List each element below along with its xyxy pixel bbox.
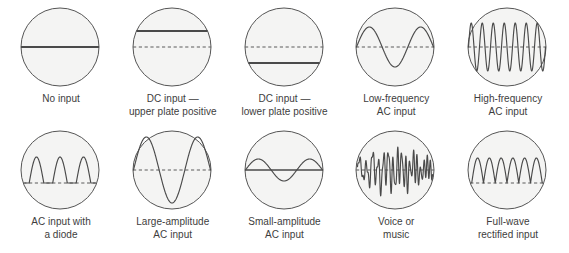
waveform-cell-ac-input-with-diode: AC input with a diode — [8, 129, 114, 241]
scope-screen-voice-or-music — [354, 129, 438, 213]
waveform-row-bottom: AC input with a diodeLarge-amplitude AC … — [0, 126, 569, 253]
waveform-cell-low-frequency-ac: Low-frequency AC input — [343, 6, 449, 118]
scope-wrap-dc-lower-plate-positive — [232, 6, 338, 90]
scope-wrap-ac-input-with-diode — [8, 129, 114, 213]
waveform-caption-voice-or-music: Voice or music — [378, 216, 415, 241]
scope-wrap-high-frequency-ac — [455, 6, 561, 90]
scope-wrap-no-input — [8, 6, 114, 90]
scope-wrap-low-frequency-ac — [343, 6, 449, 90]
waveform-row-top: No inputDC input — upper plate positiveD… — [0, 0, 569, 126]
oscilloscope-waveform-figure: No inputDC input — upper plate positiveD… — [0, 0, 569, 253]
waveform-cell-dc-upper-plate-positive: DC input — upper plate positive — [120, 6, 226, 118]
waveform-cell-no-input: No input — [8, 6, 114, 106]
scope-screen-no-input — [19, 6, 103, 90]
scope-wrap-large-amplitude-ac — [120, 129, 226, 213]
waveform-cell-high-frequency-ac: High-frequency AC input — [455, 6, 561, 118]
waveform-cell-large-amplitude-ac: Large-amplitude AC input — [120, 129, 226, 241]
waveform-caption-large-amplitude-ac: Large-amplitude AC input — [136, 216, 209, 241]
scope-bezel — [21, 131, 99, 209]
waveform-caption-dc-lower-plate-positive: DC input — lower plate positive — [241, 93, 327, 118]
waveform-caption-high-frequency-ac: High-frequency AC input — [474, 93, 543, 118]
scope-wrap-voice-or-music — [343, 129, 449, 213]
scope-bezel — [468, 131, 546, 209]
scope-screen-high-frequency-ac — [466, 6, 550, 90]
waveform-cell-dc-lower-plate-positive: DC input — lower plate positive — [232, 6, 338, 118]
scope-wrap-small-amplitude-ac — [232, 129, 338, 213]
waveform-caption-no-input: No input — [42, 93, 80, 106]
waveform-caption-small-amplitude-ac: Small-amplitude AC input — [248, 216, 320, 241]
waveform-cell-small-amplitude-ac: Small-amplitude AC input — [232, 129, 338, 241]
scope-screen-full-wave-rectified — [466, 129, 550, 213]
waveform-caption-full-wave-rectified: Full-wave rectified input — [478, 216, 538, 241]
scope-wrap-dc-upper-plate-positive — [120, 6, 226, 90]
waveform-caption-ac-input-with-diode: AC input with a diode — [31, 216, 91, 241]
scope-screen-ac-input-with-diode — [19, 129, 103, 213]
waveform-caption-low-frequency-ac: Low-frequency AC input — [363, 93, 429, 118]
waveform-cell-full-wave-rectified: Full-wave rectified input — [455, 129, 561, 241]
scope-screen-dc-upper-plate-positive — [131, 6, 215, 90]
scope-screen-low-frequency-ac — [354, 6, 438, 90]
scope-screen-large-amplitude-ac — [131, 129, 215, 213]
scope-screen-small-amplitude-ac — [243, 129, 327, 213]
waveform-caption-dc-upper-plate-positive: DC input — upper plate positive — [129, 93, 217, 118]
scope-screen-dc-lower-plate-positive — [243, 6, 327, 90]
waveform-cell-voice-or-music: Voice or music — [343, 129, 449, 241]
scope-wrap-full-wave-rectified — [455, 129, 561, 213]
